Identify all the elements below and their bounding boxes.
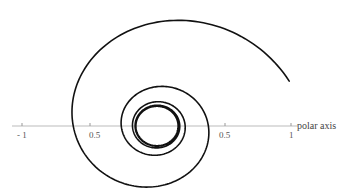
polar-spiral-plot: - 1 0.5 0.5 1 polar axis bbox=[0, 0, 344, 196]
spiral-curve bbox=[72, 20, 289, 187]
tick-label-neg05: 0.5 bbox=[89, 130, 101, 140]
tick-label-1: 1 bbox=[289, 130, 294, 140]
tick-label-neg1: - 1 bbox=[17, 130, 27, 140]
tick-label-05: 0.5 bbox=[219, 130, 231, 140]
polar-axis-label: polar axis bbox=[297, 120, 336, 131]
